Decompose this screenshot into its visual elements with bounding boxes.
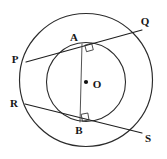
chord-rs (25, 104, 142, 133)
point-label-a: A (70, 31, 78, 43)
point-label-b: B (75, 124, 83, 136)
center-point-dot (84, 80, 88, 84)
point-label-s: S (145, 132, 151, 144)
point-label-r: R (10, 97, 19, 109)
geometry-figure: P Q R S A B O (0, 0, 167, 159)
point-label-p: P (12, 53, 19, 65)
point-label-o: O (93, 78, 102, 90)
segment-aob (80, 44, 82, 122)
chord-pq (26, 30, 142, 62)
point-label-q: Q (141, 15, 150, 27)
right-angle-at-b-icon (81, 113, 89, 121)
geometry-canvas: P Q R S A B O (0, 0, 167, 159)
